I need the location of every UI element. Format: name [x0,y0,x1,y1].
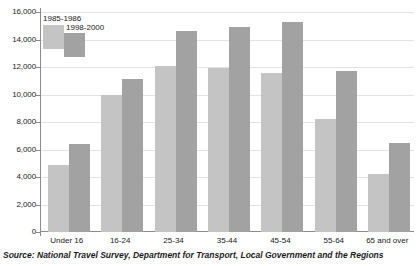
bar [69,144,90,232]
bar-group [368,12,410,232]
x-tick-label: 16-24 [93,236,146,246]
bar [155,66,176,232]
bar [389,143,410,232]
bar-group [208,12,250,232]
y-tick-label: 6,000 [2,146,36,154]
bar [176,31,197,232]
bar [208,68,229,232]
y-tick-label: 12,000 [2,63,36,71]
y-tick-mark [36,122,40,123]
bar [315,119,336,232]
bar [282,22,303,232]
bar [336,71,357,232]
y-tick-label: 8,000 [2,118,36,126]
legend-label-series-0: 1985-1986 [43,14,81,23]
x-tick-label: 25-34 [147,236,200,246]
y-tick-mark [36,150,40,151]
bar-group [155,12,197,232]
y-tick-label: 2,000 [2,201,36,209]
bar [101,95,122,233]
legend-swatch-series-1 [64,33,85,57]
y-tick-mark [36,95,40,96]
bar [368,174,389,232]
bar [48,165,69,232]
legend-swatch-series-0 [43,25,64,49]
bar [122,79,143,232]
y-tick-mark [36,12,40,13]
y-tick-label: 10,000 [2,91,36,99]
y-tick-label: 16,000 [2,8,36,16]
y-tick-mark [36,232,40,233]
y-tick-mark [36,177,40,178]
y-tick-label: 4,000 [2,173,36,181]
y-tick-mark [36,40,40,41]
chart-legend: 1985-1986 1998-2000 [43,14,153,54]
x-tick-label: 35-44 [200,236,253,246]
x-tick-label: Under 16 [40,236,93,246]
source-note: Source: National Travel Survey, Departme… [3,250,384,261]
y-axis-labels: 16,00014,00012,00010,0008,0006,0004,0002… [0,12,36,232]
legend-label-series-1: 1998-2000 [66,23,104,32]
x-tick-label: 45-54 [254,236,307,246]
y-tick-mark [36,205,40,206]
x-tick-label: 65 and over [361,236,414,246]
bar [261,73,282,232]
bar-chart-figure: 16,00014,00012,00010,0008,0006,0004,0002… [0,0,420,266]
x-axis-labels: Under 1616-2425-3435-4445-5455-6465 and … [40,236,414,250]
bar-group [315,12,357,232]
y-tick-label: 14,000 [2,36,36,44]
x-tick-label: 55-64 [307,236,360,246]
y-tick-label: 0 [2,228,36,236]
bar-group [261,12,303,232]
bar [229,27,250,232]
y-tick-mark [36,67,40,68]
